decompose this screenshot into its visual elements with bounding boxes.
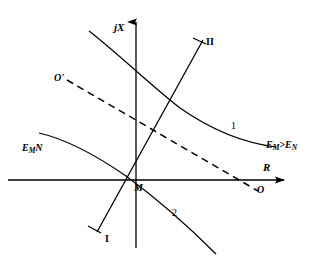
resistance-axis-label: R xyxy=(263,162,270,173)
line-I-II-path xyxy=(97,40,203,232)
point-label-M: M xyxy=(134,183,143,193)
line-II-end-tick xyxy=(193,38,206,44)
figure-canvas xyxy=(0,0,318,258)
curve-label-2: 2 xyxy=(172,208,177,218)
curve-2-annotation: EMN xyxy=(22,143,43,153)
line-end-label-II: II xyxy=(206,37,214,47)
curve-label-1: 1 xyxy=(231,121,236,131)
point-label-O-prime: O' xyxy=(54,73,64,83)
reactance-axis-label: jX xyxy=(114,22,124,33)
curve-1-annotation: EM>EN xyxy=(266,140,297,150)
curve-2-path xyxy=(39,133,216,254)
line-end-label-I: I xyxy=(105,234,109,244)
curve-1-path xyxy=(89,31,276,147)
impedance-plane-figure: jX R M O O' 1 2 II I EM>EN EMN xyxy=(0,0,318,258)
point-label-O: O xyxy=(257,185,264,195)
